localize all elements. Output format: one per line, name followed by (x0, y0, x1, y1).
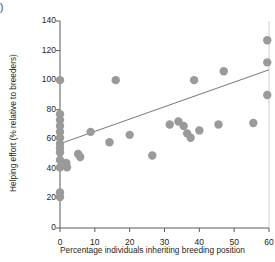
data-point (86, 128, 94, 136)
data-point (179, 122, 187, 130)
data-point (263, 91, 271, 99)
data-point (56, 193, 64, 201)
data-point (263, 58, 271, 66)
data-point (56, 148, 64, 156)
scatter-plot-canvas (0, 0, 275, 262)
data-point (112, 76, 120, 84)
x-axis-label: Percentage individuals inheriting breedi… (30, 245, 275, 255)
figure-panel: ) Helping effort (% relative to breeders… (0, 0, 275, 262)
data-point (148, 151, 156, 159)
data-point (56, 76, 64, 84)
data-point (63, 163, 71, 171)
data-point (76, 153, 84, 161)
data-point (190, 76, 198, 84)
data-point (186, 134, 194, 142)
axes-group (56, 21, 269, 232)
data-point (263, 36, 271, 44)
data-point (249, 119, 257, 127)
data-point (214, 120, 222, 128)
data-point (166, 120, 174, 128)
data-point (125, 131, 133, 139)
data-point (220, 67, 228, 75)
data-point (105, 138, 113, 146)
data-point (195, 126, 203, 134)
data-points-group (56, 36, 272, 201)
